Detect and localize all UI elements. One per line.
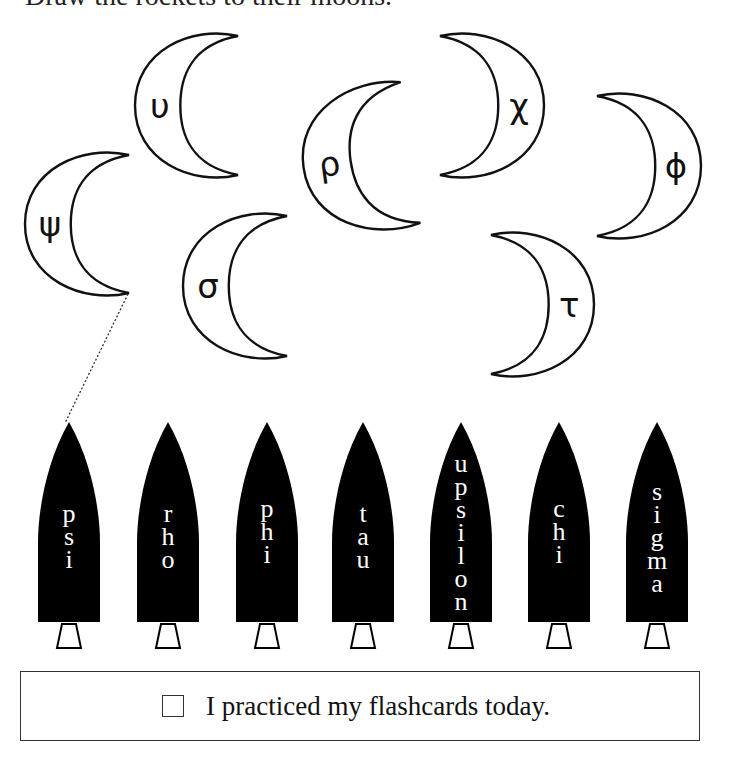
rocket-label-psi: psi (38, 502, 100, 571)
dotted-connector-line (65, 294, 128, 423)
rocket-label-chi: chi (528, 497, 590, 566)
moon-symbol-upsilon: υ (150, 86, 170, 126)
rocket-phi[interactable]: phi (236, 422, 298, 650)
moon-symbol-chi: χ (509, 86, 529, 126)
rocket-sigma[interactable]: sigma (626, 422, 688, 650)
moon-symbol-psi: ψ (39, 204, 61, 244)
moon-rho[interactable] (293, 80, 420, 241)
rocket-tau[interactable]: tau (332, 422, 394, 650)
practice-label: I practiced my flashcards today. (206, 691, 550, 722)
rocket-chi[interactable]: chi (528, 422, 590, 650)
rocket-upsilon[interactable]: upsilon (430, 422, 492, 650)
moon-symbol-tau: τ (559, 285, 579, 325)
rocket-psi[interactable]: psi (38, 422, 100, 650)
practice-confirmation-box: I practiced my flashcards today. (20, 671, 700, 741)
rocket-rho[interactable]: rho (137, 422, 199, 650)
moon-symbol-sigma: σ (197, 266, 219, 306)
crescent-moon-icon (293, 80, 420, 241)
rocket-label-phi: phi (236, 497, 298, 566)
moon-symbol-phi: ϕ (665, 146, 687, 186)
rocket-label-tau: tau (332, 502, 394, 571)
practice-checkbox[interactable] (162, 695, 184, 717)
rocket-label-sigma: sigma (626, 480, 688, 595)
rocket-label-upsilon: upsilon (430, 452, 492, 613)
rocket-label-rho: rho (137, 502, 199, 571)
